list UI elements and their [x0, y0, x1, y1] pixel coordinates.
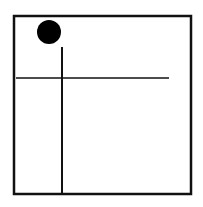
filled-circle	[37, 20, 61, 44]
square-frame	[14, 16, 191, 194]
diagram-canvas	[0, 0, 203, 207]
